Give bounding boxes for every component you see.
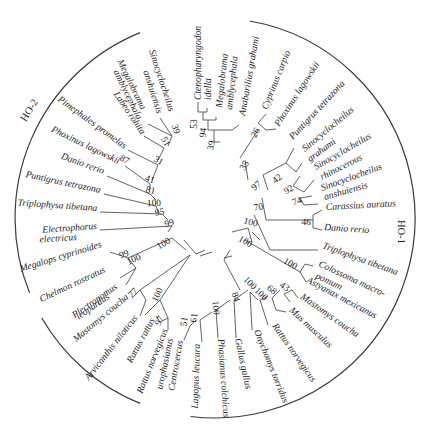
leaf-label: Puntigrus tetrazona (24, 168, 102, 195)
leaf-label: Phasianus colchicus (216, 337, 233, 417)
bootstrap-value: 70 (253, 201, 264, 213)
bootstrap-value: 31 (152, 154, 165, 168)
leaf-label: Danio rerio (323, 221, 370, 235)
bootstrap-value: 84 (229, 291, 242, 304)
bootstrap-value: 100 (155, 235, 173, 251)
bootstrap-value: 100 (243, 215, 260, 228)
bootstrap-value: 100 (147, 198, 162, 208)
leaf-label: Carassius auratus (326, 197, 397, 212)
bootstrap-value: 42 (270, 172, 284, 186)
phylogenetic-tree: CtenopharyngodonidellaMegalobramaamblyce… (0, 0, 430, 435)
bootstrap-value: 41 (144, 173, 156, 186)
bootstrap-value: 94 (198, 127, 209, 138)
bootstrap-value: 100 (237, 234, 255, 250)
bootstrap-value: 53 (189, 119, 199, 129)
bootstrap-value: 51 (178, 316, 190, 327)
bootstrap-value: 99 (163, 217, 175, 229)
leaf-label: idella (202, 78, 213, 100)
bootstrap-value: 74 (291, 195, 304, 208)
bootstrap-value: 26 (249, 126, 262, 139)
leaf-label: Lagopus leucura (189, 343, 202, 409)
group-label-ho-2: HO-2 (18, 97, 40, 123)
bootstrap-value: 95 (154, 206, 165, 217)
bootstrap-value: 39 (169, 123, 182, 136)
leaf-label: Gallus gallus (233, 337, 255, 390)
bootstrap-value: 100 (282, 256, 300, 272)
leaf-label: Triplophysa tibetana (17, 196, 97, 213)
bootstrap-value: 61 (189, 312, 200, 323)
group-label-ho-1: HO-1 (396, 220, 407, 244)
bootstrap-value: 92 (282, 183, 295, 197)
bootstrap-value: 46 (301, 217, 311, 228)
leaf-label: electricus (39, 231, 77, 245)
bootstrap-value: 100 (150, 286, 165, 303)
bootstrap-value: 39 (205, 139, 217, 151)
bootstrap-value: 35 (238, 159, 252, 172)
bootstrap-value: 81 (145, 184, 157, 196)
leaf-label: Anabarilius grahami (236, 35, 261, 117)
leaf-labels: CtenopharyngodonidellaMegalobramaamblyce… (17, 26, 400, 418)
clade-arc (191, 382, 330, 418)
bootstrap-values: 5394392635429274977046100100100100841006… (118, 119, 312, 327)
bootstrap-value: 97 (153, 314, 166, 327)
bootstrap-value: 97 (249, 179, 263, 193)
bootstrap-value: 100 (210, 300, 221, 315)
